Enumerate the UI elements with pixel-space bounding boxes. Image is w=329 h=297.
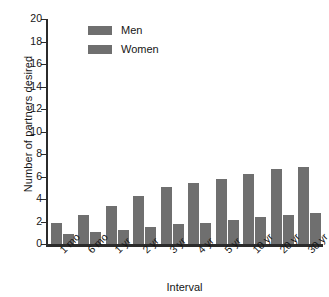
y-tick-mark (41, 222, 48, 223)
y-tick-label: 12 (30, 102, 42, 114)
x-axis-title: Interval (46, 281, 323, 293)
y-tick-mark (41, 109, 48, 110)
y-tick-mark (41, 199, 48, 200)
y-tick-mark (41, 154, 48, 155)
bar-group (298, 19, 326, 244)
y-tick-label: 0 (36, 237, 42, 249)
bar-chart: Number of partners desired 0246810121416… (0, 0, 329, 297)
y-tick-14: 14 (46, 87, 47, 88)
bar-men (243, 174, 254, 244)
y-tick-label: 18 (30, 35, 42, 47)
bar-men (271, 169, 282, 244)
y-tick-12: 12 (46, 109, 47, 110)
bar-group (51, 19, 79, 244)
legend: MenWomen (88, 22, 198, 60)
legend-item-men: Men (88, 22, 198, 38)
y-tick-16: 16 (46, 64, 47, 65)
y-tick-8: 8 (46, 154, 47, 155)
legend-label: Men (121, 24, 142, 36)
y-tick-2: 2 (46, 222, 47, 223)
y-tick-6: 6 (46, 177, 47, 178)
y-tick-label: 8 (36, 147, 42, 159)
y-tick-4: 4 (46, 199, 47, 200)
y-tick-label: 2 (36, 215, 42, 227)
y-tick-mark (41, 42, 48, 43)
legend-item-women: Women (88, 41, 198, 57)
x-axis-tick-labels: 1 mo6 mo1 yr2 yr3 yr4 yr5 yr10 yr20 yr30… (48, 247, 325, 279)
y-tick-mark (41, 19, 48, 20)
y-tick-label: 10 (30, 125, 42, 137)
y-tick-mark (41, 244, 48, 245)
legend-swatch-men (88, 26, 112, 35)
bar-group (271, 19, 299, 244)
legend-label: Women (121, 43, 159, 55)
bar-men (298, 167, 309, 244)
y-tick-label: 14 (30, 80, 42, 92)
y-tick-label: 6 (36, 170, 42, 182)
y-tick-label: 4 (36, 192, 42, 204)
bar-men (51, 223, 62, 244)
bar-men (216, 179, 227, 244)
y-tick-mark (41, 87, 48, 88)
bar-group (216, 19, 244, 244)
y-tick-mark (41, 132, 48, 133)
y-tick-10: 10 (46, 132, 47, 133)
y-tick-label: 20 (30, 12, 42, 24)
bar-men (161, 187, 172, 244)
bar-men (188, 183, 199, 244)
legend-swatch-women (88, 45, 112, 54)
y-tick-18: 18 (46, 42, 47, 43)
y-tick-0: 0 (46, 244, 47, 245)
bar-men (133, 196, 144, 244)
y-tick-label: 16 (30, 57, 42, 69)
y-tick-20: 20 (46, 19, 47, 20)
y-tick-mark (41, 64, 48, 65)
y-tick-mark (41, 177, 48, 178)
bar-group (243, 19, 271, 244)
